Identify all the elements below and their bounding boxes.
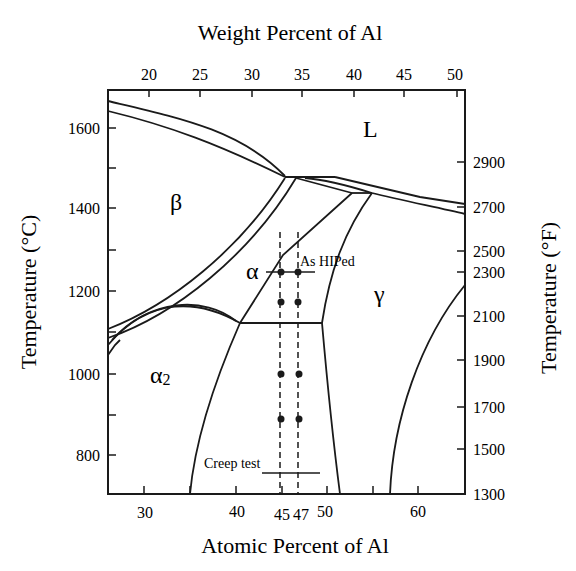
svg-text:50: 50: [317, 503, 333, 520]
svg-text:40: 40: [346, 66, 362, 83]
phase-boundaries: [108, 101, 465, 494]
right-ticks: [457, 162, 465, 449]
svg-text:47: 47: [293, 506, 309, 523]
bottom-ticks: [144, 486, 418, 494]
svg-text:30: 30: [244, 66, 260, 83]
svg-text:2500: 2500: [473, 243, 505, 260]
left-axis-title: Temperature (°C): [16, 215, 41, 369]
right-tick-labels: 2900 2700 2500 2300 2100 1900 1700 1500 …: [473, 154, 505, 503]
left-tick-labels: 1600 1400 1200 1000 800: [68, 120, 100, 464]
phase-label-liquid: L: [363, 116, 378, 142]
phase-label-beta: β: [170, 189, 182, 215]
bottom-tick-labels: 30 40 45 47 50 60: [137, 503, 426, 523]
svg-text:1900: 1900: [473, 352, 505, 369]
svg-text:1400: 1400: [68, 200, 100, 217]
svg-text:1200: 1200: [68, 283, 100, 300]
phase-label-alpha2: α2: [150, 362, 171, 388]
svg-text:2100: 2100: [473, 308, 505, 325]
svg-text:2300: 2300: [473, 264, 505, 281]
svg-text:40: 40: [229, 503, 245, 520]
svg-text:2700: 2700: [473, 199, 505, 216]
svg-text:1700: 1700: [473, 399, 505, 416]
left-ticks: [108, 128, 116, 455]
bottom-axis-title: Atomic Percent of Al: [201, 533, 389, 558]
svg-text:60: 60: [410, 503, 426, 520]
svg-text:20: 20: [141, 66, 157, 83]
svg-text:1000: 1000: [68, 366, 100, 383]
plot-frame: [108, 90, 465, 494]
top-tick-labels: 20 25 30 35 40 45 50: [141, 66, 463, 83]
svg-text:45: 45: [274, 506, 290, 523]
right-axis-title: Temperature (°F): [536, 222, 561, 374]
annotation-creep: Creep test: [204, 456, 260, 471]
svg-text:1500: 1500: [473, 441, 505, 458]
svg-text:50: 50: [447, 66, 463, 83]
svg-text:35: 35: [294, 66, 310, 83]
svg-text:1600: 1600: [68, 120, 100, 137]
phase-label-alpha: α: [246, 258, 259, 284]
top-axis-title: Weight Percent of Al: [198, 20, 383, 45]
phase-label-gamma: γ: [373, 281, 385, 307]
svg-text:30: 30: [137, 504, 153, 521]
top-ticks: [149, 90, 457, 97]
svg-text:1300: 1300: [473, 486, 505, 503]
svg-text:25: 25: [192, 66, 208, 83]
svg-text:2900: 2900: [473, 154, 505, 171]
annotation-hiped: As HIPed: [300, 254, 355, 269]
phase-diagram: Weight Percent of Al Atomic Percent of A…: [0, 0, 576, 571]
svg-text:800: 800: [76, 447, 100, 464]
svg-text:45: 45: [396, 66, 412, 83]
